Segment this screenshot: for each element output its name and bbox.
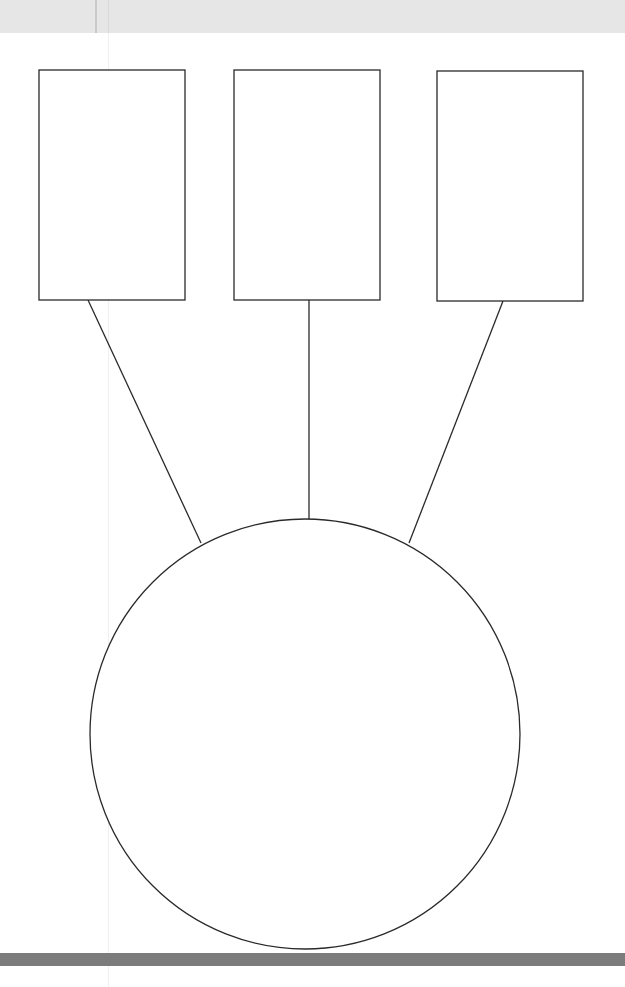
box-1 — [39, 70, 185, 300]
center-circle-group — [90, 519, 520, 949]
box-2 — [234, 70, 380, 300]
box-3 — [437, 71, 583, 301]
boxes — [39, 70, 583, 301]
connector-line-3 — [409, 301, 503, 543]
center-circle — [90, 519, 520, 949]
connector-line-1 — [88, 300, 201, 543]
connector-lines — [88, 300, 503, 543]
organizer-diagram — [0, 0, 625, 987]
bottom-scan-bar — [0, 953, 625, 966]
